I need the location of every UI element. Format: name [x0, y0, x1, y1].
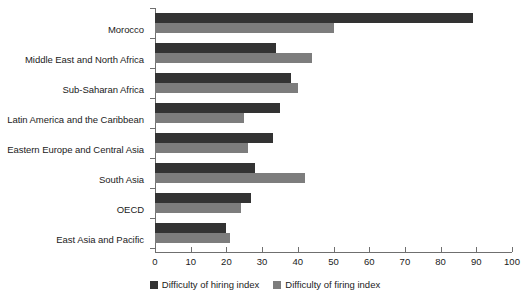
x-axis-line [155, 252, 512, 253]
legend-label: Difficulty of hiring index [162, 279, 260, 291]
bar-firing [155, 203, 241, 213]
category-label: Morocco [0, 24, 144, 35]
x-axis-tick-label: 0 [135, 256, 175, 267]
bar-firing [155, 83, 298, 93]
x-axis-tick-label: 20 [206, 256, 246, 267]
bar-firing [155, 113, 244, 123]
category-label: Eastern Europe and Central Asia [0, 144, 144, 155]
x-axis-tick-label: 10 [171, 256, 211, 267]
bar-firing [155, 23, 334, 33]
x-axis-tick-label: 30 [242, 256, 282, 267]
x-axis-tick-label: 50 [314, 256, 354, 267]
bar-hiring [155, 73, 291, 83]
x-axis-tick-label: 40 [278, 256, 318, 267]
bar-hiring [155, 13, 473, 23]
bar-hiring [155, 193, 251, 203]
plot-area [155, 8, 512, 252]
bar-hiring [155, 43, 276, 53]
x-axis-tick-label: 80 [421, 256, 461, 267]
bar-firing [155, 233, 230, 243]
legend-swatch-hiring [150, 281, 158, 289]
x-axis-tick-label: 90 [456, 256, 496, 267]
x-axis-tick-label: 70 [385, 256, 425, 267]
category-label: Sub-Saharan Africa [0, 84, 144, 95]
bar-chart: Morocco Middle East and North Africa Sub… [0, 0, 530, 301]
bar-firing [155, 143, 248, 153]
bar-hiring [155, 163, 255, 173]
bar-hiring [155, 223, 226, 233]
x-axis-tick [512, 247, 513, 252]
category-label: South Asia [0, 174, 144, 185]
category-label: OECD [0, 204, 144, 215]
legend-item: Difficulty of hiring index [150, 279, 260, 291]
chart-legend: Difficulty of hiring indexDifficulty of … [0, 279, 530, 291]
x-axis-tick-label: 60 [349, 256, 389, 267]
legend-swatch-firing [273, 281, 281, 289]
category-axis-labels: Morocco Middle East and North Africa Sub… [0, 8, 149, 252]
legend-item: Difficulty of firing index [273, 279, 380, 291]
category-label: Latin America and the Caribbean [0, 114, 144, 125]
legend-label: Difficulty of firing index [285, 279, 380, 291]
bar-firing [155, 173, 305, 183]
category-label: East Asia and Pacific [0, 234, 144, 245]
category-label: Middle East and North Africa [0, 54, 144, 65]
bar-firing [155, 53, 312, 63]
x-axis-tick-label: 100 [492, 256, 530, 267]
bar-hiring [155, 103, 280, 113]
bar-hiring [155, 133, 273, 143]
